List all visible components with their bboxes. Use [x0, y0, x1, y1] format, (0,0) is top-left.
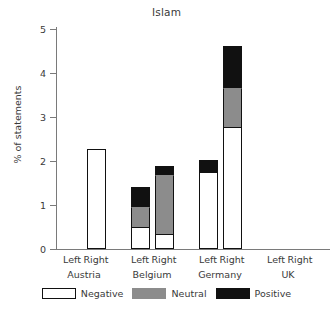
legend-label: Positive — [255, 288, 292, 299]
bar-germany-right — [223, 46, 242, 249]
legend-swatch-icon — [216, 288, 250, 299]
bar-segment-neutral — [131, 207, 150, 227]
bar-segment-negative — [87, 149, 106, 249]
chart-legend: NegativeNeutralPositive — [0, 288, 333, 299]
legend-label: Negative — [81, 288, 124, 299]
y-axis-tick-label: 5 — [28, 24, 46, 35]
bar-segment-positive — [131, 187, 150, 207]
legend-item-neutral[interactable]: Neutral — [132, 288, 206, 299]
y-axis-tick-label: 0 — [28, 244, 46, 255]
bar-segment-negative — [199, 172, 218, 249]
y-axis-label-text: % of statements — [12, 85, 23, 163]
plot-area — [56, 29, 330, 249]
bar-austria-right — [87, 149, 106, 249]
bar-segment-neutral — [223, 88, 242, 128]
y-axis-tick — [50, 249, 56, 250]
bar-segment-positive — [199, 160, 218, 172]
y-axis-label: % of statements — [8, 0, 26, 249]
x-axis-sublabel-uk-right: Right — [280, 254, 320, 265]
x-axis-sublabel-belgium-right: Right — [144, 254, 184, 265]
chart-figure: Islam % of statements 012345 LeftRightAu… — [0, 0, 333, 314]
y-axis-tick-label: 2 — [28, 156, 46, 167]
y-axis-tick-label: 4 — [28, 68, 46, 79]
bar-germany-left — [199, 160, 218, 249]
x-axis-sublabel-austria-right: Right — [76, 254, 116, 265]
bar-segment-neutral — [155, 175, 174, 234]
chart-title: Islam — [0, 6, 333, 18]
x-axis-sublabel-germany-right: Right — [212, 254, 252, 265]
y-axis-tick-label: 1 — [28, 200, 46, 211]
y-axis-tick-label: 3 — [28, 112, 46, 123]
bar-segment-negative — [155, 234, 174, 249]
legend-swatch-icon — [42, 288, 76, 299]
x-axis-group-label-uk: UK — [243, 269, 333, 280]
bar-segment-positive — [155, 166, 174, 175]
legend-swatch-icon — [132, 288, 166, 299]
x-axis-line — [56, 249, 330, 250]
bar-belgium-right — [155, 166, 174, 249]
legend-item-negative[interactable]: Negative — [42, 288, 124, 299]
legend-item-positive[interactable]: Positive — [216, 288, 292, 299]
bar-belgium-left — [131, 187, 150, 249]
bar-segment-positive — [223, 46, 242, 88]
bar-segment-negative — [131, 227, 150, 249]
bar-segment-negative — [223, 127, 242, 249]
legend-label: Neutral — [171, 288, 206, 299]
